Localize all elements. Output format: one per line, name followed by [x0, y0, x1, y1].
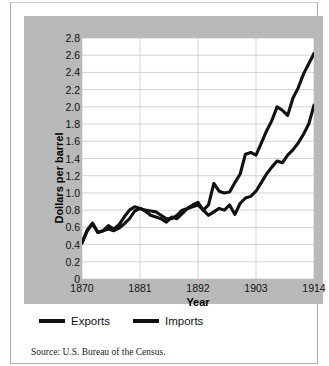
x-tick-label: 1870	[70, 282, 93, 294]
x-tick-label: 1903	[244, 282, 267, 294]
y-tick-label: 2.4	[46, 67, 80, 77]
figure-frame: Dollars per barrel 00.20.40.60.81.01.21.…	[10, 2, 318, 364]
legend-label-exports: Exports	[71, 315, 110, 327]
x-tick-label: 1881	[128, 282, 151, 294]
y-tick-label: 2.2	[46, 85, 80, 95]
y-tick-label: 1.0	[46, 188, 80, 198]
legend-item-exports: Exports	[39, 315, 110, 327]
y-tick-label: 0.4	[46, 240, 80, 250]
y-axis-tick-labels: 00.20.40.60.81.01.21.41.61.82.02.22.42.6…	[42, 38, 80, 279]
y-tick-label: 2.8	[46, 33, 80, 43]
source-note: Source: U.S. Bureau of the Census.	[31, 347, 166, 357]
y-tick-label: 2.0	[46, 102, 80, 112]
plot-area	[82, 38, 314, 279]
y-tick-label: 2.6	[46, 50, 80, 60]
legend-label-imports: Imports	[165, 315, 203, 327]
legend-item-imports: Imports	[133, 315, 203, 327]
chart-legend: Exports Imports	[39, 315, 217, 327]
y-tick-label: 1.4	[46, 154, 80, 164]
y-tick-label: 1.2	[46, 171, 80, 181]
y-tick-label: 0.8	[46, 205, 80, 215]
line-chart-svg	[82, 38, 314, 279]
figure-page: Dollars per barrel 00.20.40.60.81.01.21.…	[0, 0, 329, 366]
x-axis-title: Year	[82, 296, 314, 308]
legend-line-swatch-icon	[133, 319, 159, 323]
x-tick-label: 1892	[186, 282, 209, 294]
x-axis-tick-labels: 18701881189219031914	[82, 282, 314, 296]
y-tick-label: 0.2	[46, 257, 80, 267]
y-tick-label: 1.8	[46, 119, 80, 129]
legend-line-swatch-icon	[39, 319, 65, 323]
chart-panel: Dollars per barrel 00.20.40.60.81.01.21.…	[24, 16, 323, 304]
x-tick-label: 1914	[302, 282, 325, 294]
y-tick-label: 1.6	[46, 136, 80, 146]
y-tick-label: 0.6	[46, 222, 80, 232]
